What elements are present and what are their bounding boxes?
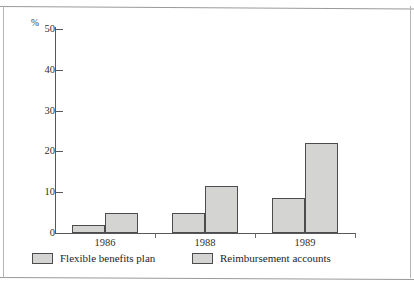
y-axis-tick-label-wrap: 40 — [20, 70, 55, 71]
y-axis-tick-label-wrap: 50 — [20, 29, 55, 30]
y-axis-tick-label: 20 — [29, 146, 55, 157]
y-axis-tick-label-wrap: 10 — [20, 192, 55, 193]
x-axis-line — [55, 233, 355, 234]
bar-1988-series-1 — [172, 213, 205, 233]
y-axis-tick-label-wrap: 0 — [20, 233, 55, 234]
y-axis-tick-label: 30 — [29, 106, 55, 117]
y-axis-tick-mark — [56, 70, 63, 71]
plot-area: % 50403020100 198619881989 — [0, 0, 414, 245]
y-axis-tick-label: 0 — [29, 228, 55, 239]
bar-1986-series-1 — [72, 225, 105, 233]
bar-1989-series-1 — [272, 198, 305, 233]
x-axis-label-1986: 1986 — [55, 238, 155, 249]
y-axis-line — [55, 27, 56, 234]
legend-item-1[interactable]: Flexible benefits plan — [32, 253, 155, 264]
legend-swatch-icon — [192, 253, 213, 264]
y-axis-tick-label-wrap: 20 — [20, 151, 55, 152]
legend-item-2[interactable]: Reimbursement accounts — [192, 253, 331, 264]
y-axis-tick-mark — [56, 192, 63, 193]
chart-legend: Flexible benefits planReimbursement acco… — [0, 250, 414, 274]
y-axis-tick-label-wrap: 30 — [20, 111, 55, 112]
frame-border-bottom — [0, 277, 414, 280]
bar-1989-series-2 — [305, 143, 338, 233]
legend-label: Reimbursement accounts — [220, 253, 331, 264]
x-axis-label-1989: 1989 — [255, 238, 355, 249]
x-axis-tick-mark — [355, 233, 356, 238]
y-axis-tick-label: 50 — [29, 24, 55, 35]
y-axis-tick-mark — [56, 111, 63, 112]
legend-swatch-icon — [32, 253, 53, 264]
chart-figure: % 50403020100 198619881989 Flexible bene… — [0, 0, 414, 291]
x-axis-label-1988: 1988 — [155, 238, 255, 249]
y-axis-tick-mark — [56, 151, 63, 152]
bar-1988-series-2 — [205, 186, 238, 233]
legend-label: Flexible benefits plan — [60, 253, 155, 264]
y-axis-tick-mark — [56, 29, 63, 30]
y-axis-tick-label: 40 — [29, 65, 55, 76]
bar-1986-series-2 — [105, 213, 138, 233]
y-axis-tick-label: 10 — [29, 187, 55, 198]
